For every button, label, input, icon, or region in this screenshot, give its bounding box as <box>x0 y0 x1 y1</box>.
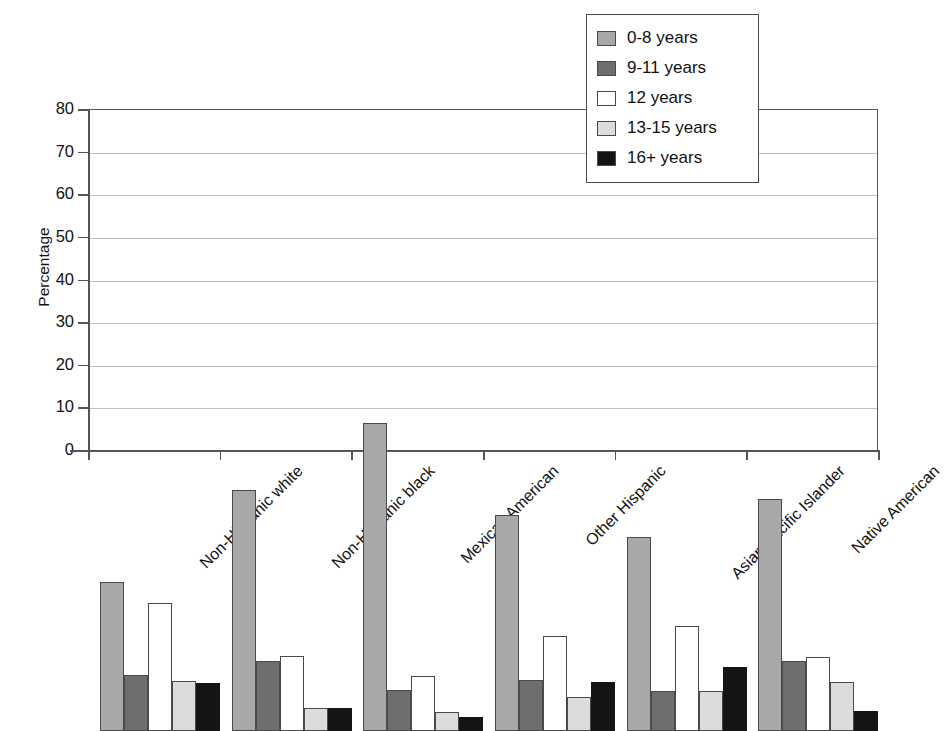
bar <box>758 499 782 731</box>
bar <box>591 682 615 731</box>
y-axis-label: 10 <box>18 398 74 415</box>
bar <box>806 657 830 731</box>
y-axis-line <box>88 109 90 451</box>
y-axis-label: 70 <box>18 143 74 160</box>
bar <box>328 708 352 731</box>
bar <box>172 681 196 731</box>
legend-swatch-icon <box>597 91 616 106</box>
y-axis-label: 40 <box>18 271 74 288</box>
bar <box>782 661 806 731</box>
bar <box>304 708 328 731</box>
x-axis-tick <box>878 450 880 460</box>
bar-group <box>363 109 483 731</box>
bar <box>387 690 411 731</box>
legend: 0-8 years9-11 years12 years13-15 years16… <box>586 14 759 183</box>
bar-group <box>100 109 220 731</box>
bar <box>363 423 387 731</box>
bar <box>495 515 519 731</box>
bar <box>148 603 172 731</box>
bar <box>830 682 854 731</box>
x-axis-tick <box>88 450 90 460</box>
bar <box>124 675 148 731</box>
y-axis-label: 60 <box>18 185 74 202</box>
bar-group <box>232 109 352 731</box>
legend-item[interactable]: 16+ years <box>597 143 748 173</box>
bar-group <box>495 109 615 731</box>
legend-item[interactable]: 12 years <box>597 83 748 113</box>
bar <box>411 676 435 731</box>
bar <box>280 656 304 731</box>
legend-label: 0-8 years <box>627 28 698 48</box>
bar <box>651 691 675 731</box>
legend-label: 12 years <box>627 88 692 108</box>
legend-swatch-icon <box>597 121 616 136</box>
bar <box>854 711 878 731</box>
bar <box>543 636 567 731</box>
y-axis-label: 50 <box>18 228 74 245</box>
y-axis-label: 80 <box>18 100 74 117</box>
bar <box>459 717 483 731</box>
legend-swatch-icon <box>597 31 616 46</box>
x-axis-tick <box>220 450 222 460</box>
y-axis-label: 30 <box>18 313 74 330</box>
bar <box>232 490 256 731</box>
x-axis-tick <box>483 450 485 460</box>
legend-label: 16+ years <box>627 148 702 168</box>
legend-item[interactable]: 0-8 years <box>597 23 748 53</box>
bar <box>567 697 591 731</box>
bar <box>519 680 543 731</box>
legend-swatch-icon <box>597 151 616 166</box>
y-axis-label: 0 <box>18 441 74 458</box>
x-axis-tick <box>351 450 353 460</box>
bar <box>100 582 124 731</box>
x-axis-tick <box>615 450 617 460</box>
legend-label: 9-11 years <box>627 58 706 78</box>
y-axis-label: 20 <box>18 356 74 373</box>
legend-label: 13-15 years <box>627 118 717 138</box>
bar <box>723 667 747 731</box>
bar-group <box>627 109 747 731</box>
legend-item[interactable]: 9-11 years <box>597 53 748 83</box>
bar <box>627 537 651 731</box>
x-axis-tick <box>746 450 748 460</box>
bar <box>435 712 459 731</box>
bar-group <box>758 109 878 731</box>
legend-item[interactable]: 13-15 years <box>597 113 748 143</box>
bar <box>256 661 280 731</box>
bar <box>196 683 220 731</box>
bar <box>699 691 723 731</box>
bar <box>675 626 699 731</box>
legend-swatch-icon <box>597 61 616 76</box>
